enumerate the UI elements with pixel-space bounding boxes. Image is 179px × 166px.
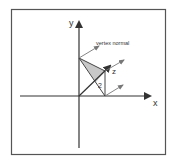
x-axis-label: x xyxy=(153,98,158,108)
triangle-label: 2 xyxy=(98,82,102,89)
diagram-canvas: y x z vertex normal 2 xyxy=(0,0,179,166)
diagram-svg: y x z vertex normal 2 xyxy=(0,0,179,166)
z-axis-label: z xyxy=(112,67,116,76)
vertex-normal-label: vertex normal xyxy=(96,40,129,46)
diagram-frame xyxy=(12,10,166,155)
y-axis-label: y xyxy=(69,18,74,28)
